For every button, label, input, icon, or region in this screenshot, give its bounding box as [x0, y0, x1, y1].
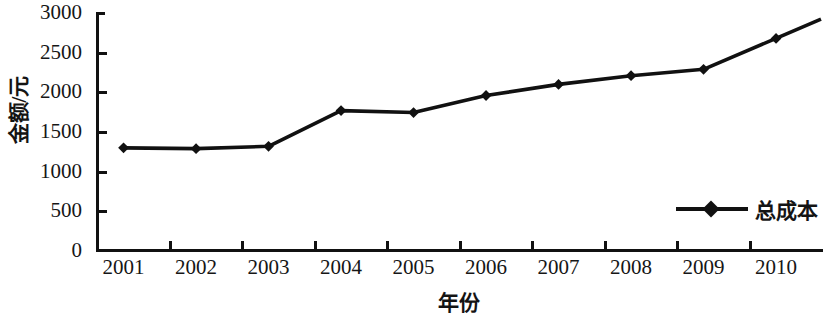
- legend-label-total-cost: 总成本: [755, 194, 818, 224]
- data-point-marker: [481, 90, 492, 101]
- data-point-marker: [698, 64, 709, 75]
- y-axis-tick-label: 0: [2, 240, 82, 261]
- x-axis-tick-mark: [676, 241, 679, 251]
- y-axis-tick-label: 1000: [2, 161, 82, 182]
- x-axis-tick-mark: [314, 241, 317, 251]
- legend-line-marker-icon: [676, 201, 748, 217]
- y-axis-tick-label: 2500: [2, 42, 82, 63]
- y-axis-tick-labels: 050010001500200025003000: [0, 0, 88, 260]
- chart-legend: 总成本: [676, 194, 818, 224]
- y-axis-tick-label: 2000: [2, 81, 82, 102]
- y-axis-tick-mark: [98, 91, 107, 94]
- y-axis-tick-mark: [98, 210, 107, 213]
- y-axis-tick-label: 1500: [2, 121, 82, 142]
- data-point-marker: [191, 143, 202, 154]
- y-axis-tick-mark: [98, 131, 107, 134]
- data-point-marker: [553, 79, 564, 90]
- y-axis-tick-label: 3000: [2, 2, 82, 23]
- x-axis-tick-mark: [531, 241, 534, 251]
- y-axis-tick-mark: [98, 171, 107, 174]
- x-axis-tick-mark: [386, 241, 389, 251]
- y-axis-tick-mark: [98, 52, 107, 55]
- data-point-marker: [771, 33, 782, 44]
- x-axis-tick-mark: [169, 241, 172, 251]
- x-axis-tick-mark: [749, 241, 752, 251]
- x-axis-title: 年份: [96, 286, 821, 316]
- x-axis-tick-labels: 2001200220032004200520062007200820092010: [96, 256, 825, 286]
- data-point-marker: [118, 142, 129, 153]
- data-point-marker: [626, 70, 637, 81]
- x-axis-tick-mark: [241, 241, 244, 251]
- x-axis-tick-mark: [459, 241, 462, 251]
- y-axis-tick-label: 500: [2, 200, 82, 221]
- x-axis-tick-label: 2010: [731, 256, 821, 278]
- x-axis-tick-mark: [604, 241, 607, 251]
- series-line-1: [124, 19, 821, 148]
- data-point-marker: [408, 107, 419, 118]
